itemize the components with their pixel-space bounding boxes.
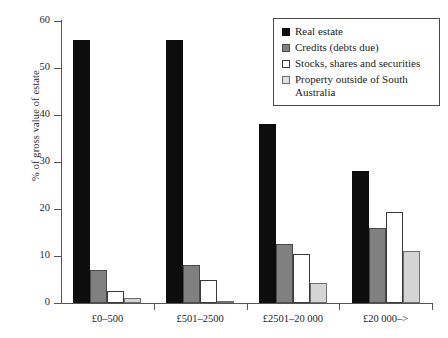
x-axis-tick (247, 303, 248, 310)
legend-label: Credits (debts due) (295, 41, 379, 54)
legend-swatch-icon (282, 28, 290, 36)
x-axis-tick (339, 303, 340, 310)
bar (310, 283, 327, 303)
y-axis-tick (54, 209, 61, 210)
legend-label: Real estate (295, 25, 343, 38)
bar (259, 124, 276, 303)
legend-item: Credits (debts due) (282, 41, 432, 54)
y-axis-tick (54, 303, 61, 304)
bar (124, 298, 141, 303)
x-axis-group-label: £20 000–> (339, 313, 432, 324)
bar (107, 291, 124, 303)
x-axis-tick (432, 303, 433, 310)
bar (276, 244, 293, 303)
bar (183, 265, 200, 303)
x-axis-group-label: £2501–20 000 (247, 313, 340, 324)
legend-item: Stocks, shares and securities (282, 57, 432, 70)
bar (403, 251, 420, 303)
bar (386, 212, 403, 303)
x-axis-tick (154, 303, 155, 310)
legend-swatch-icon (282, 76, 290, 84)
legend-swatch-icon (282, 44, 290, 52)
x-axis-group-label: £0–500 (61, 313, 154, 324)
y-axis-tick-label: 20 (8, 203, 50, 214)
bar (166, 40, 183, 303)
y-axis-tick (54, 162, 61, 163)
x-axis-group-label: £501–2500 (154, 313, 247, 324)
legend-label: Property outside of South Australia (295, 73, 432, 98)
bar (200, 280, 217, 304)
y-axis-tick-label: 40 (8, 109, 50, 120)
legend-label: Stocks, shares and securities (295, 57, 420, 70)
y-axis-tick (54, 115, 61, 116)
legend: Real estate Credits (debts due) Stocks, … (273, 18, 440, 106)
legend-item: Real estate (282, 25, 432, 38)
bar (369, 228, 386, 303)
bar (352, 171, 369, 303)
bar (73, 40, 90, 303)
y-axis-tick-label: 60 (8, 15, 50, 26)
y-axis-tick-label: 30 (8, 156, 50, 167)
legend-item: Property outside of South Australia (282, 73, 432, 98)
bar (90, 270, 107, 303)
bar (293, 254, 310, 303)
bar (217, 301, 234, 303)
bar-chart: % of gross value of estate 0102030405060… (0, 0, 448, 338)
legend-swatch-icon (282, 60, 290, 68)
y-axis-tick-label: 10 (8, 250, 50, 261)
y-axis-tick-label: 50 (8, 62, 50, 73)
y-axis-tick (54, 21, 61, 22)
y-axis-tick-label: 0 (8, 297, 50, 308)
y-axis-tick (54, 68, 61, 69)
y-axis-tick (54, 256, 61, 257)
